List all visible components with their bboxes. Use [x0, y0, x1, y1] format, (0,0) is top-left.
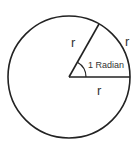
horizontal-radius-label: r [97, 83, 102, 98]
arc-length-label: r [125, 34, 130, 49]
angle-arc [77, 62, 86, 77]
radian-diagram: r r r 1 Radian [0, 0, 139, 149]
slanted-radius-label: r [71, 35, 76, 50]
angle-label: 1 Radian [88, 60, 124, 70]
